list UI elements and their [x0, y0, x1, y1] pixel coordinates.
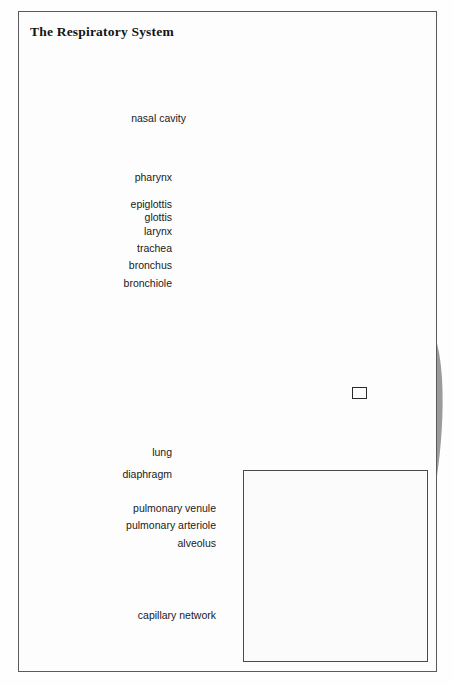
respiratory-system-figure: The Respiratory System nasal cavityphary…	[0, 0, 453, 685]
alveoli-detail-inset	[243, 470, 428, 662]
label-nasal-cavity: nasal cavity	[0, 112, 186, 124]
label-capillary-network: capillary network	[0, 609, 216, 621]
label-pulmonary-venule: pulmonary venule	[0, 502, 216, 514]
page-title: The Respiratory System	[30, 24, 174, 40]
label-pharynx: pharynx	[0, 171, 172, 183]
label-glottis: glottis	[0, 211, 172, 223]
label-alveolus: alveolus	[0, 537, 216, 549]
label-bronchus: bronchus	[0, 259, 172, 271]
label-diaphragm: diaphragm	[0, 468, 172, 480]
label-bronchiole: bronchiole	[0, 277, 172, 289]
label-pulmonary-arteriole: pulmonary arteriole	[0, 519, 216, 531]
label-larynx: larynx	[0, 225, 172, 237]
label-lung: lung	[0, 446, 172, 458]
magnification-source-box	[352, 387, 367, 399]
label-trachea: trachea	[0, 242, 172, 254]
label-epiglottis: epiglottis	[0, 198, 172, 210]
